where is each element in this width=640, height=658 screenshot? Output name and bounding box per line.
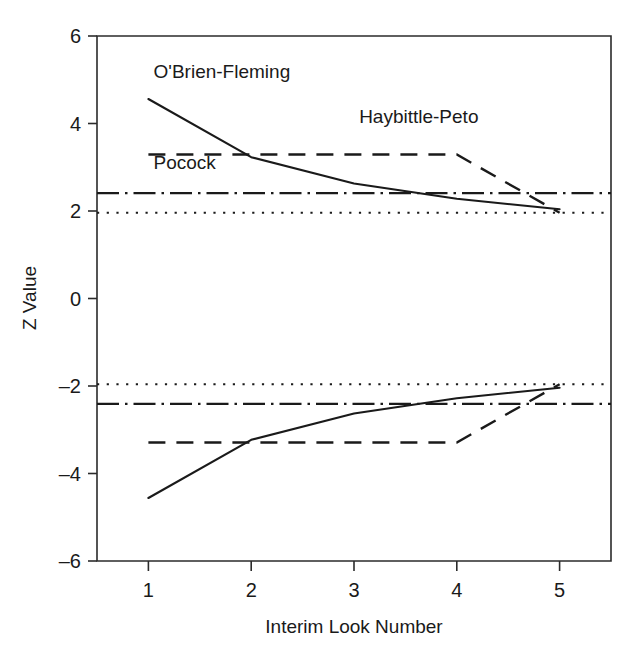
x-tick-label: 2: [246, 579, 257, 601]
series-annotation: Pocock: [154, 152, 217, 173]
y-tick-label: 2: [70, 200, 81, 222]
x-tick-label: 3: [348, 579, 359, 601]
y-tick-label: –6: [59, 550, 81, 572]
x-axis-title: Interim Look Number: [265, 616, 443, 637]
y-tick-label: 6: [70, 25, 81, 47]
x-tick-label: 4: [451, 579, 462, 601]
figure-container: 6420–2–4–6 12345 O'Brien-FlemingHaybittl…: [0, 0, 640, 658]
x-tick-label: 1: [143, 579, 154, 601]
y-tick-label: 4: [70, 113, 81, 135]
y-tick-label: –2: [59, 375, 81, 397]
series-annotation: O'Brien-Fleming: [154, 61, 291, 82]
x-tick-label: 5: [554, 579, 565, 601]
z-boundary-chart: 6420–2–4–6 12345 O'Brien-FlemingHaybittl…: [0, 0, 640, 658]
y-tick-label: –4: [59, 463, 81, 485]
y-tick-label: 0: [70, 288, 81, 310]
chart-background: [0, 0, 640, 658]
y-axis-title: Z Value: [19, 266, 40, 330]
series-annotation: Haybittle-Peto: [359, 106, 478, 127]
